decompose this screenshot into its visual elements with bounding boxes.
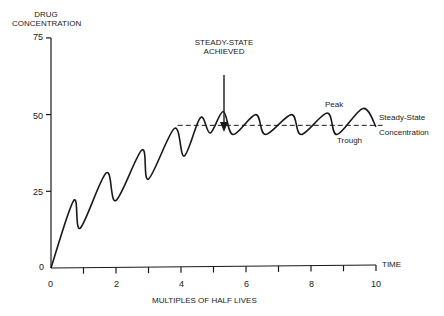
x-axis-title: MULTIPLES OF HALF LIVES: [152, 296, 257, 305]
x-tick-6: 6: [244, 279, 249, 289]
steady-annotation-line2: ACHIEVED: [190, 47, 258, 56]
steady-annotation-line1: STEADY-STATE: [190, 38, 258, 47]
x-tick-2: 2: [114, 279, 119, 289]
trough-label: Trough: [337, 136, 362, 145]
steady-state-achieved-annotation: STEADY-STATE ACHIEVED: [190, 38, 258, 56]
x-tick-10: 10: [371, 279, 381, 289]
y-title-line2: CONCENTRATION: [12, 19, 80, 28]
axes: [46, 38, 376, 274]
y-title-line1: DRUG: [12, 10, 80, 19]
steady-state-concentration-label-line2: Concentration: [379, 128, 429, 137]
y-tick-0: 0: [39, 262, 44, 272]
steady-state-concentration-label-line1: Steady-State: [379, 113, 425, 122]
y-axis-title: DRUG CONCENTRATION: [12, 10, 80, 28]
x-tick-8: 8: [309, 279, 314, 289]
steady-state-arrow: [220, 75, 228, 132]
peak-label: Peak: [325, 100, 343, 109]
x-tick-0: 0: [48, 279, 53, 289]
x-tick-4: 4: [179, 279, 184, 289]
time-label: TIME: [382, 260, 401, 269]
y-tick-25: 25: [33, 187, 43, 197]
y-tick-50: 50: [33, 111, 43, 121]
concentration-curve: [51, 108, 376, 268]
y-tick-75: 75: [33, 32, 43, 42]
